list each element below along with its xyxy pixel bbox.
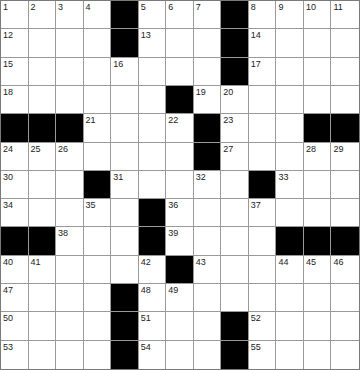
crossword-cell[interactable]: 12	[1, 29, 29, 57]
crossword-cell[interactable]	[166, 143, 194, 171]
crossword-cell[interactable]: 41	[29, 256, 57, 284]
crossword-cell[interactable]	[84, 58, 112, 86]
crossword-cell[interactable]	[194, 199, 222, 227]
crossword-cell[interactable]	[331, 29, 359, 57]
crossword-cell[interactable]: 23	[221, 114, 249, 142]
crossword-cell[interactable]: 1	[1, 1, 29, 29]
crossword-cell[interactable]	[56, 284, 84, 312]
crossword-cell[interactable]	[304, 86, 332, 114]
crossword-cell[interactable]	[221, 171, 249, 199]
crossword-cell[interactable]: 9	[276, 1, 304, 29]
crossword-cell[interactable]	[194, 341, 222, 369]
crossword-cell[interactable]: 26	[56, 143, 84, 171]
crossword-cell[interactable]: 27	[221, 143, 249, 171]
crossword-cell[interactable]: 37	[249, 199, 277, 227]
crossword-cell[interactable]	[84, 256, 112, 284]
crossword-cell[interactable]	[276, 341, 304, 369]
crossword-cell[interactable]	[194, 29, 222, 57]
crossword-cell[interactable]: 50	[1, 312, 29, 340]
crossword-cell[interactable]: 3	[56, 1, 84, 29]
crossword-cell[interactable]	[166, 29, 194, 57]
crossword-cell[interactable]	[331, 58, 359, 86]
crossword-cell[interactable]	[84, 341, 112, 369]
crossword-cell[interactable]	[166, 171, 194, 199]
crossword-cell[interactable]	[84, 86, 112, 114]
crossword-cell[interactable]	[221, 199, 249, 227]
crossword-cell[interactable]: 17	[249, 58, 277, 86]
crossword-cell[interactable]: 48	[139, 284, 167, 312]
crossword-cell[interactable]	[221, 256, 249, 284]
crossword-cell[interactable]	[166, 312, 194, 340]
crossword-cell[interactable]: 36	[166, 199, 194, 227]
crossword-cell[interactable]: 16	[111, 58, 139, 86]
crossword-cell[interactable]: 18	[1, 86, 29, 114]
crossword-cell[interactable]: 34	[1, 199, 29, 227]
crossword-cell[interactable]: 2	[29, 1, 57, 29]
crossword-cell[interactable]	[331, 171, 359, 199]
crossword-cell[interactable]	[331, 199, 359, 227]
crossword-cell[interactable]	[304, 58, 332, 86]
crossword-cell[interactable]: 35	[84, 199, 112, 227]
crossword-cell[interactable]: 28	[304, 143, 332, 171]
crossword-cell[interactable]: 42	[139, 256, 167, 284]
crossword-cell[interactable]	[276, 86, 304, 114]
crossword-cell[interactable]	[56, 58, 84, 86]
crossword-cell[interactable]	[304, 284, 332, 312]
crossword-cell[interactable]: 19	[194, 86, 222, 114]
crossword-cell[interactable]	[29, 284, 57, 312]
crossword-cell[interactable]: 55	[249, 341, 277, 369]
crossword-cell[interactable]	[276, 143, 304, 171]
crossword-cell[interactable]	[249, 86, 277, 114]
crossword-cell[interactable]	[194, 227, 222, 255]
crossword-cell[interactable]	[276, 199, 304, 227]
crossword-cell[interactable]	[29, 312, 57, 340]
crossword-cell[interactable]	[111, 227, 139, 255]
crossword-cell[interactable]: 30	[1, 171, 29, 199]
crossword-cell[interactable]: 6	[166, 1, 194, 29]
crossword-cell[interactable]	[166, 341, 194, 369]
crossword-cell[interactable]	[249, 284, 277, 312]
crossword-cell[interactable]	[276, 284, 304, 312]
crossword-cell[interactable]: 21	[84, 114, 112, 142]
crossword-cell[interactable]	[276, 312, 304, 340]
crossword-cell[interactable]: 7	[194, 1, 222, 29]
crossword-cell[interactable]	[84, 29, 112, 57]
crossword-cell[interactable]	[304, 341, 332, 369]
crossword-cell[interactable]	[276, 58, 304, 86]
crossword-cell[interactable]: 54	[139, 341, 167, 369]
crossword-cell[interactable]: 13	[139, 29, 167, 57]
crossword-cell[interactable]	[84, 312, 112, 340]
crossword-cell[interactable]: 24	[1, 143, 29, 171]
crossword-cell[interactable]	[56, 86, 84, 114]
crossword-cell[interactable]	[331, 341, 359, 369]
crossword-cell[interactable]: 51	[139, 312, 167, 340]
crossword-cell[interactable]: 22	[166, 114, 194, 142]
crossword-cell[interactable]: 32	[194, 171, 222, 199]
crossword-cell[interactable]: 47	[1, 284, 29, 312]
crossword-cell[interactable]	[56, 341, 84, 369]
crossword-cell[interactable]	[139, 86, 167, 114]
crossword-cell[interactable]	[139, 114, 167, 142]
crossword-cell[interactable]	[29, 341, 57, 369]
crossword-cell[interactable]	[276, 29, 304, 57]
crossword-cell[interactable]	[331, 312, 359, 340]
crossword-cell[interactable]	[29, 86, 57, 114]
crossword-cell[interactable]: 20	[221, 86, 249, 114]
crossword-cell[interactable]: 8	[249, 1, 277, 29]
crossword-cell[interactable]	[249, 256, 277, 284]
crossword-cell[interactable]: 25	[29, 143, 57, 171]
crossword-cell[interactable]: 31	[111, 171, 139, 199]
crossword-cell[interactable]	[221, 227, 249, 255]
crossword-cell[interactable]	[29, 58, 57, 86]
crossword-cell[interactable]	[111, 86, 139, 114]
crossword-cell[interactable]: 45	[304, 256, 332, 284]
crossword-cell[interactable]	[111, 143, 139, 171]
crossword-cell[interactable]	[194, 284, 222, 312]
crossword-cell[interactable]: 33	[276, 171, 304, 199]
crossword-cell[interactable]	[304, 312, 332, 340]
crossword-cell[interactable]: 5	[139, 1, 167, 29]
crossword-cell[interactable]: 10	[304, 1, 332, 29]
crossword-cell[interactable]: 11	[331, 1, 359, 29]
crossword-cell[interactable]: 46	[331, 256, 359, 284]
crossword-cell[interactable]	[304, 199, 332, 227]
